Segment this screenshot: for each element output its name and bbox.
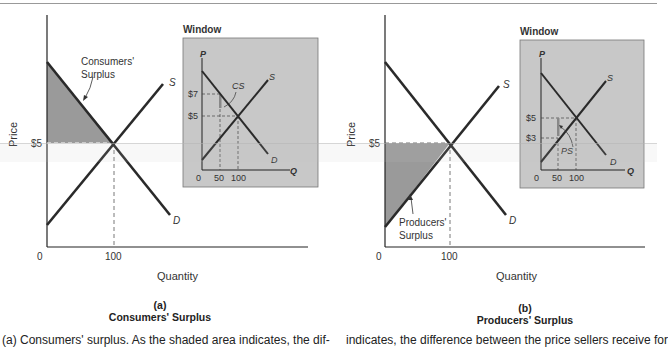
supply-label: S xyxy=(503,79,510,90)
window-cs-label: CS xyxy=(232,81,245,91)
annotation-arrow xyxy=(85,77,93,98)
window-q-label: Q xyxy=(627,166,634,176)
y-axis-label: Price xyxy=(345,122,357,147)
window-title: Window xyxy=(183,24,221,35)
window-title: Window xyxy=(520,26,558,37)
window-frame xyxy=(183,38,318,187)
window-p-label: P xyxy=(200,49,207,59)
y-axis-label: Price xyxy=(7,122,19,147)
window-tick-y-2: $5 xyxy=(188,111,198,121)
window-tick-y-2: $3 xyxy=(526,133,536,143)
window-tick-x-2: 50 xyxy=(214,173,224,183)
window-tick-x-1: 0 xyxy=(534,173,539,183)
panel-a-window: Window P Q S D CS $7 $5 0 50 100 xyxy=(183,24,318,187)
demand-label: D xyxy=(509,215,516,226)
window-d-label: D xyxy=(271,155,278,165)
caption-a-title: Consumers' Surplus xyxy=(60,311,260,323)
origin-label: 0 xyxy=(37,251,43,262)
caption-b-title: Producers' Surplus xyxy=(425,314,625,326)
window-ps-bar xyxy=(557,118,560,136)
window-q-label: Q xyxy=(290,166,297,176)
caption-a: (a) Consumers' Surplus xyxy=(60,299,260,323)
window-tick-x-3: 100 xyxy=(569,173,584,183)
window-frame xyxy=(520,40,644,188)
caption-b: (b) Producers' Surplus xyxy=(425,302,625,326)
supply-label: S xyxy=(169,77,176,88)
window-d-label: D xyxy=(610,157,617,167)
window-ps-label: PS xyxy=(561,146,573,156)
annotation-line-2: Surplus xyxy=(399,230,433,241)
quantity-tick: 100 xyxy=(441,251,458,262)
body-text-left: (a) Consumers' surplus. As the shaded ar… xyxy=(2,333,330,347)
caption-a-letter: (a) xyxy=(60,299,260,311)
window-tick-y-1: $5 xyxy=(526,113,536,123)
window-s-label: S xyxy=(607,73,613,83)
price-tick: $5 xyxy=(369,138,381,149)
annotation-line-1: Producers' xyxy=(399,217,447,228)
arrowhead-icon xyxy=(83,95,88,101)
x-axis-label: Quantity xyxy=(496,270,537,282)
quantity-tick: 100 xyxy=(105,251,122,262)
window-p-label: P xyxy=(539,49,546,59)
annotation-arrow xyxy=(411,198,413,214)
body-text-right: indicates, the difference between the pr… xyxy=(346,333,668,347)
demand-label: D xyxy=(173,215,180,226)
annotation-line-2: Surplus xyxy=(81,69,115,80)
window-tick-y-1: $7 xyxy=(188,89,198,99)
window-s-label: S xyxy=(269,72,275,82)
price-tick: $5 xyxy=(31,138,43,149)
window-tick-x-3: 100 xyxy=(231,173,246,183)
window-tick-x-1: 0 xyxy=(196,173,201,183)
panel-b-window: Window P Q S D PS $5 $3 0 50 100 xyxy=(520,26,644,188)
caption-b-letter: (b) xyxy=(425,302,625,314)
x-axis-label: Quantity xyxy=(157,270,198,282)
annotation-line-1: Consumers' xyxy=(81,56,134,67)
window-tick-x-2: 50 xyxy=(552,173,562,183)
origin-label: 0 xyxy=(376,251,382,262)
